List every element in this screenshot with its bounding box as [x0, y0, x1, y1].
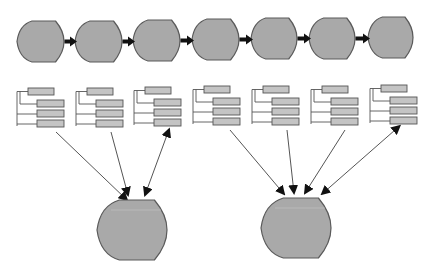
tree-child-box [96, 100, 123, 107]
edge-group [56, 130, 395, 200]
stage-shape-4 [192, 19, 239, 60]
stage-shape-1 [17, 21, 64, 62]
tree-child-box [390, 107, 417, 114]
tree-child-box [37, 110, 64, 117]
tree-root-box [28, 88, 54, 95]
tree-child-box [272, 98, 299, 105]
tree-child-box [96, 110, 123, 117]
tree-child-box [213, 118, 240, 125]
edge-tree-6-to-merged-right [305, 130, 345, 193]
tree-child-box [154, 119, 181, 126]
hierarchy-tree-1 [17, 88, 64, 127]
edge-tree-3-to-merged-left [145, 135, 167, 195]
stage-shape-3 [133, 20, 180, 61]
tree-child-box [390, 117, 417, 124]
tree-root-box [263, 86, 289, 93]
tree-child-box [272, 118, 299, 125]
merged-left-shape [97, 200, 167, 260]
tree-child-box [37, 100, 64, 107]
tree-root-box [322, 86, 348, 93]
stage-shape-2 [75, 21, 122, 62]
edge-tree-2-to-merged-left [111, 132, 128, 195]
hierarchy-tree-5 [252, 86, 299, 125]
tree-root-box [145, 87, 171, 94]
right-arrow-icon [298, 34, 312, 44]
stage-sequence-row [17, 17, 413, 62]
tree-child-box [272, 108, 299, 115]
edge-tree-4-to-merged-right [230, 130, 284, 194]
merged-right-shape [261, 198, 331, 258]
tree-child-box [331, 118, 358, 125]
tree-child-box [213, 98, 240, 105]
edge-tree-7-to-merged-right [322, 130, 395, 194]
tree-child-box [96, 120, 123, 127]
hierarchy-tree-4 [193, 86, 240, 125]
tree-child-box [390, 97, 417, 104]
edge-tree-1-to-merged-left [56, 132, 127, 200]
tree-child-box [154, 109, 181, 116]
hierarchy-tree-2 [76, 88, 123, 127]
tree-child-box [213, 108, 240, 115]
tree-group [17, 85, 417, 127]
hierarchy-tree-3 [134, 87, 181, 126]
tree-child-box [37, 120, 64, 127]
stage-shape-6 [309, 18, 355, 59]
tree-child-box [154, 99, 181, 106]
stage-shape-5 [251, 18, 297, 59]
hierarchy-tree-7 [370, 85, 417, 124]
tree-root-box [381, 85, 407, 92]
tree-child-box [331, 98, 358, 105]
tree-root-box [204, 86, 230, 93]
stage-shape-7 [368, 17, 413, 58]
tree-root-box [87, 88, 113, 95]
hierarchy-tree-6 [311, 86, 358, 125]
merged-shape-group [97, 198, 331, 260]
edge-tree-5-to-merged-right [287, 130, 294, 193]
diagram-canvas [0, 0, 430, 271]
tree-child-box [331, 108, 358, 115]
